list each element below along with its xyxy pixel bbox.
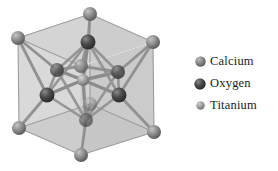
legend-item-titanium: Titanium bbox=[190, 97, 278, 114]
atom-calcium bbox=[83, 97, 97, 111]
legend-label-calcium: Calcium bbox=[210, 53, 254, 70]
titanium-sphere-icon bbox=[190, 97, 210, 114]
crystal-structure-figure: Calcium Oxygen bbox=[0, 0, 278, 171]
legend-label-titanium: Titanium bbox=[210, 97, 257, 114]
atom-oxygen bbox=[81, 35, 96, 50]
atom-oxygen bbox=[111, 65, 125, 79]
legend-item-oxygen: Oxygen bbox=[190, 75, 278, 92]
atom-oxygen bbox=[112, 88, 127, 103]
atom-oxygen bbox=[40, 88, 55, 103]
perovskite-unit-cell-diagram bbox=[0, 0, 180, 171]
atom-oxygen bbox=[50, 63, 64, 77]
atom-titanium-center bbox=[77, 74, 89, 86]
atom-oxygen bbox=[79, 113, 93, 127]
oxygen-sphere-icon bbox=[190, 75, 210, 92]
atom-calcium bbox=[83, 7, 97, 21]
atom-calcium bbox=[12, 121, 26, 135]
atom-calcium bbox=[146, 35, 160, 49]
calcium-sphere-icon bbox=[190, 53, 210, 70]
atom-calcium bbox=[11, 31, 25, 45]
legend-label-oxygen: Oxygen bbox=[210, 75, 251, 92]
atom-calcium bbox=[74, 59, 88, 73]
legend: Calcium Oxygen bbox=[190, 53, 278, 114]
atom-calcium bbox=[74, 148, 88, 162]
atom-calcium bbox=[147, 125, 161, 139]
legend-item-calcium: Calcium bbox=[190, 53, 278, 70]
